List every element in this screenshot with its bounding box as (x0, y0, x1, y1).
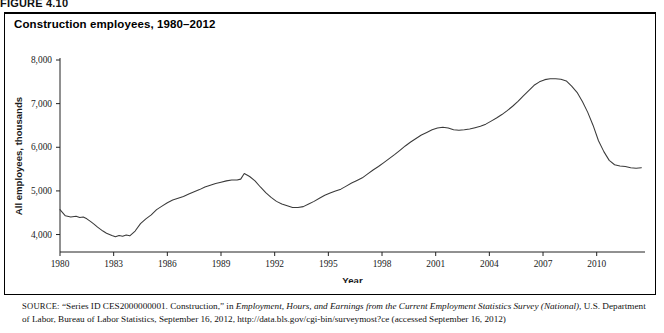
x-tick-label: 1992 (265, 259, 284, 269)
x-tick-label: 1983 (104, 259, 123, 269)
x-tick-label: 1980 (51, 259, 70, 269)
source-text-italic: Employment, Hours, and Earnings from the… (236, 301, 582, 311)
y-tick-label: 5,000 (31, 186, 52, 196)
source-note: SOURCE: “Series ID CES2000000001. Constr… (22, 300, 646, 325)
plot-area: 4,0005,0006,0007,0008,000198019831986198… (0, 0, 652, 283)
series-line-0 (60, 79, 641, 237)
y-axis-title: All employees, thousands (13, 97, 24, 215)
y-tick-label: 8,000 (31, 55, 52, 65)
x-tick-label: 1998 (373, 259, 392, 269)
line-chart-svg: 4,0005,0006,0007,0008,000198019831986198… (0, 0, 652, 283)
x-tick-label: 1989 (212, 259, 231, 269)
x-tick-label: 2004 (480, 259, 499, 269)
y-tick-label: 7,000 (31, 99, 52, 109)
y-tick-label: 4,000 (31, 230, 52, 240)
figure-page: FIGURE 4.10 Construction employees, 1980… (0, 0, 664, 333)
source-text-part1: “Series ID CES2000000001. Construction,”… (62, 301, 236, 311)
x-tick-label: 2010 (587, 259, 606, 269)
x-tick-label: 1986 (158, 259, 177, 269)
x-tick-label: 2001 (426, 259, 445, 269)
source-label: SOURCE: (22, 301, 60, 311)
x-tick-label: 1995 (319, 259, 338, 269)
x-tick-label: 2007 (534, 259, 553, 269)
x-axis-title: Year (342, 275, 363, 283)
y-tick-label: 6,000 (31, 142, 52, 152)
